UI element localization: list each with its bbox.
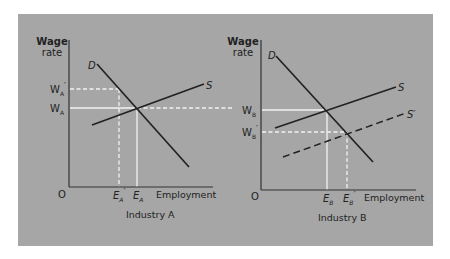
- wage-b-label: WB: [242, 105, 256, 118]
- wage-a-prime-label: WA′: [50, 81, 66, 97]
- panel-title-a: Industry A: [126, 209, 175, 220]
- y-axis-label-a-line1: Wage: [36, 36, 68, 47]
- employment-b-label: EB: [323, 193, 333, 206]
- supply-label-a: S: [206, 80, 213, 91]
- panel-title-b: Industry B: [318, 212, 367, 223]
- origin-a: O: [58, 189, 66, 200]
- wage-b-prime-label: WB′: [242, 124, 258, 140]
- panel-industry-b: Wage rate D S S′ WB WB′ O EB EB′ Employm…: [227, 36, 424, 223]
- panel-industry-a: Wage rate D S WA′ WA O EA′ EA Employment…: [36, 36, 232, 220]
- x-axis-label-a: Employment: [156, 189, 216, 200]
- supply-shifted-label-b: S′: [407, 109, 416, 120]
- employment-a-prime-label: EA′: [113, 187, 125, 203]
- demand-label-a: D: [88, 60, 96, 71]
- x-axis-label-b: Employment: [364, 192, 424, 203]
- wage-employment-diagram: Wage rate D S WA′ WA O EA′ EA Employment…: [0, 0, 450, 259]
- demand-curve-b: [276, 56, 373, 162]
- supply-label-b: S: [398, 82, 405, 93]
- demand-label-b: D: [268, 50, 276, 61]
- y-axis-label-b-line1: Wage: [227, 36, 259, 47]
- supply-curve-a: [92, 84, 204, 125]
- employment-b-prime-label: EB′: [343, 190, 356, 206]
- y-axis-label-a-line2: rate: [42, 47, 62, 58]
- employment-a-label: EA: [133, 190, 143, 203]
- wage-a-label: WA: [50, 103, 65, 116]
- demand-curve-a: [97, 64, 189, 167]
- y-axis-label-b-line2: rate: [233, 47, 253, 58]
- origin-b: O: [251, 191, 259, 202]
